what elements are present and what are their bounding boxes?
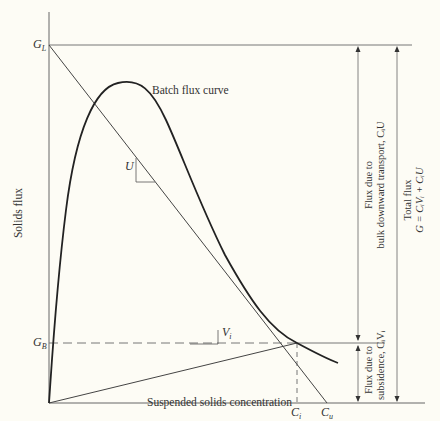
y-axis-label: Solids flux [12, 178, 24, 248]
arrow-down-icon [395, 396, 400, 402]
arrow-up-icon [356, 345, 361, 351]
bulk-transport-annotation: Flux due to bulk downward transport, CᵢU [363, 90, 387, 280]
u-label: U [125, 159, 134, 174]
x-axis-label: Suspended solids concentration [147, 396, 292, 408]
ci-label: Ci [291, 405, 301, 421]
subsidence-annotation: Flux due to subsidence, CᵢVᵢ [363, 340, 387, 400]
arrow-up-icon [356, 46, 361, 52]
gl-label: GL [33, 37, 46, 53]
vi-slope-triangle [190, 330, 218, 344]
subsidence-line [49, 343, 297, 403]
batch-flux-curve-label: Batch flux curve [152, 84, 229, 96]
batch-flux-curve [49, 82, 338, 403]
arrow-down-icon [356, 335, 361, 341]
cu-label: Cu [321, 405, 333, 421]
gb-label: GB [33, 335, 47, 351]
operating-line [49, 45, 327, 403]
arrow-up-icon [395, 46, 400, 52]
total-flux-annotation: Total flux G = CᵢVᵢ + CᵢU [402, 130, 426, 270]
arrow-down-icon [356, 396, 361, 402]
vi-label: Vi [222, 325, 232, 341]
